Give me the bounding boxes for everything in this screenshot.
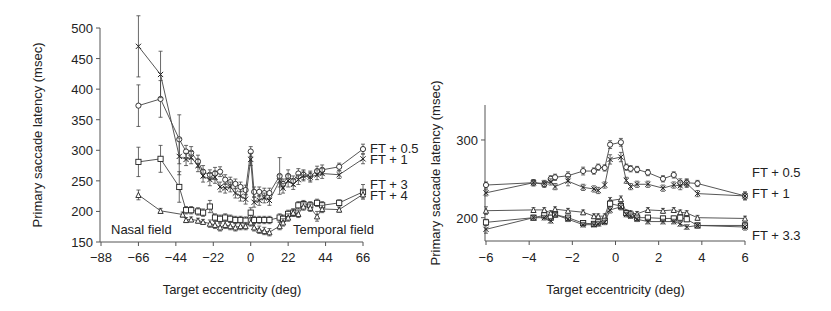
x-tick-label: 0 — [247, 250, 254, 265]
series-ft-0-5 — [136, 81, 366, 198]
marker-circle-icon — [618, 140, 623, 145]
marker-square-icon — [177, 184, 182, 189]
marker-circle-icon — [238, 184, 243, 189]
temporal-field-label: Temporal field — [293, 222, 374, 237]
x-tick-label: −4 — [522, 250, 537, 265]
marker-circle-icon — [695, 181, 700, 186]
marker-square-icon — [296, 203, 301, 208]
marker-square-icon — [608, 201, 613, 206]
y-tick-label: 300 — [456, 133, 478, 148]
series-line — [486, 204, 745, 226]
marker-square-icon — [337, 200, 342, 205]
legend-label: FT + 4 — [370, 188, 408, 203]
marker-square-icon — [252, 217, 257, 222]
y-tick-label: 500 — [71, 21, 93, 36]
marker-circle-icon — [252, 189, 257, 194]
marker-circle-icon — [217, 169, 222, 174]
x-tick-label: −44 — [165, 250, 187, 265]
marker-square-icon — [483, 220, 488, 225]
marker-square-icon — [678, 215, 683, 220]
series-ft-0-5 — [483, 138, 747, 199]
x-tick-label: −2 — [565, 250, 580, 265]
marker-circle-icon — [671, 172, 676, 177]
y-axis-title: Primary saccade latency (msec) — [428, 81, 443, 266]
x-tick-label: 6 — [741, 250, 748, 265]
right-chart: 200300−6−4−20246Primary saccade latency … — [428, 81, 801, 297]
marker-square-icon — [207, 204, 212, 209]
marker-square-icon — [200, 210, 205, 215]
marker-square-icon — [238, 217, 243, 222]
marker-triangle-icon — [136, 192, 141, 197]
marker-circle-icon — [634, 167, 639, 172]
series-line — [138, 99, 363, 193]
marker-square-icon — [136, 159, 141, 164]
series-ft-3-3-b- — [483, 201, 747, 229]
marker-circle-icon — [608, 142, 613, 147]
y-tick-label: 350 — [71, 113, 93, 128]
series-ft-1 — [483, 152, 747, 199]
x-tick-label: 22 — [281, 250, 295, 265]
y-tick-label: 300 — [71, 143, 93, 158]
marker-circle-icon — [257, 189, 262, 194]
x-tick-label: 2 — [655, 250, 662, 265]
marker-circle-icon — [602, 165, 607, 170]
marker-circle-icon — [337, 164, 342, 169]
y-tick-label: 450 — [71, 52, 93, 67]
marker-circle-icon — [223, 177, 228, 182]
marker-square-icon — [233, 217, 238, 222]
marker-square-icon — [189, 208, 194, 213]
nasal-field-label: Nasal field — [111, 222, 172, 237]
y-axis-title: Primary saccade latency (msec) — [30, 43, 45, 228]
y-tick-label: 200 — [71, 204, 93, 219]
marker-triangle-icon — [252, 225, 257, 230]
marker-square-icon — [223, 215, 228, 220]
marker-square-icon — [684, 217, 689, 222]
marker-square-icon — [267, 217, 272, 222]
legend-label: FT + 3.3 — [752, 228, 801, 243]
marker-circle-icon — [483, 182, 488, 187]
series-line — [138, 46, 363, 202]
series-line — [486, 157, 745, 196]
legend-label: FT + 0.5 — [752, 165, 801, 180]
marker-circle-icon — [591, 168, 596, 173]
marker-square-icon — [262, 217, 267, 222]
marker-circle-icon — [360, 146, 365, 151]
series-line — [486, 142, 745, 196]
x-axis-title: Target eccentricity (deg) — [163, 282, 302, 297]
series-ft-1 — [136, 16, 366, 207]
marker-triangle-icon — [217, 225, 222, 230]
marker-square-icon — [217, 216, 222, 221]
marker-circle-icon — [581, 168, 586, 173]
marker-circle-icon — [267, 190, 272, 195]
marker-circle-icon — [552, 175, 557, 180]
x-tick-label: −22 — [202, 250, 224, 265]
left-chart: 150200250300350400450500−88−66−44−220224… — [30, 16, 419, 297]
legend-label: FT + 1 — [370, 152, 408, 167]
figure: 150200250300350400450500−88−66−44−220224… — [0, 0, 831, 311]
legend: FT + 0.5FT + 1FT + 3.3 — [752, 165, 801, 243]
x-tick-label: −66 — [127, 250, 149, 265]
marker-square-icon — [195, 209, 200, 214]
marker-circle-icon — [233, 181, 238, 186]
y-tick-label: 250 — [71, 174, 93, 189]
x-tick-label: 0 — [612, 250, 619, 265]
legend-label: FT + 1 — [752, 186, 790, 201]
x-tick-label: −6 — [479, 250, 494, 265]
marker-square-icon — [257, 217, 262, 222]
y-tick-label: 150 — [71, 235, 93, 250]
marker-circle-icon — [660, 176, 665, 181]
y-tick-label: 400 — [71, 82, 93, 97]
axes: 150200250300350400450500−88−66−44−220224… — [30, 21, 370, 297]
marker-square-icon — [158, 156, 163, 161]
x-tick-label: 44 — [318, 250, 332, 265]
axes: 200300−6−4−20246Primary saccade latency … — [428, 81, 749, 297]
marker-circle-icon — [645, 170, 650, 175]
marker-square-icon — [314, 200, 319, 205]
marker-square-icon — [212, 215, 217, 220]
legend: FT + 0.5FT + 1FT + 3FT + 4 — [370, 141, 419, 203]
marker-circle-icon — [136, 103, 141, 108]
x-tick-label: 66 — [356, 250, 370, 265]
x-axis-title: Target eccentricity (deg) — [546, 282, 685, 297]
y-tick-label: 200 — [456, 211, 478, 226]
marker-circle-icon — [596, 165, 601, 170]
